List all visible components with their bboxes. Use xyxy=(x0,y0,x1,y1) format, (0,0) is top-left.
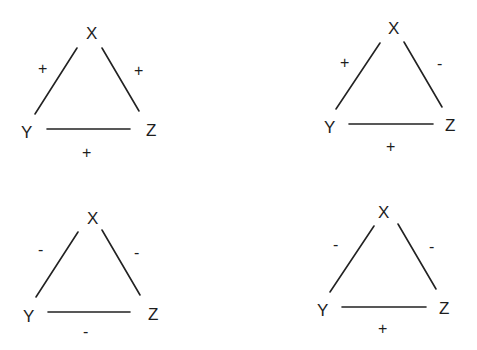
node-x: X xyxy=(87,209,98,228)
node-y: Y xyxy=(317,301,328,320)
triangle-bottom-left: X Y Z - - - xyxy=(23,209,158,340)
node-x: X xyxy=(388,19,399,38)
edge-xy xyxy=(336,43,380,109)
sign-xz: - xyxy=(429,238,434,255)
sign-xz: - xyxy=(134,244,139,261)
node-x: X xyxy=(378,203,389,222)
node-z: Z xyxy=(146,121,156,140)
node-x: X xyxy=(86,24,97,43)
sign-xy: + xyxy=(340,54,349,71)
edge-xz xyxy=(398,224,436,289)
triangle-top-right: X Y Z + - + xyxy=(324,19,455,155)
node-z: Z xyxy=(439,299,449,318)
triad-diagram: X Y Z + + + X Y Z + - + X Y Z - - - X Y … xyxy=(0,0,477,350)
node-y: Y xyxy=(23,307,34,326)
node-z: Z xyxy=(445,116,455,135)
edge-xz xyxy=(102,48,139,111)
edge-xz xyxy=(404,42,442,107)
sign-yz: - xyxy=(83,323,88,340)
node-y: Y xyxy=(21,123,32,142)
sign-yz: + xyxy=(386,138,395,155)
triangle-bottom-right: X Y Z - - + xyxy=(317,203,449,337)
sign-yz: + xyxy=(378,320,387,337)
node-z: Z xyxy=(148,305,158,324)
sign-yz: + xyxy=(82,144,91,161)
node-y: Y xyxy=(324,118,335,137)
triangle-top-left: X Y Z + + + xyxy=(21,24,156,161)
edge-xy xyxy=(35,48,77,114)
sign-xz: - xyxy=(437,55,442,72)
sign-xy: - xyxy=(38,241,43,258)
sign-xy: + xyxy=(38,60,47,77)
sign-xz: + xyxy=(134,62,143,79)
edge-xz xyxy=(102,230,140,295)
sign-xy: - xyxy=(333,236,338,253)
